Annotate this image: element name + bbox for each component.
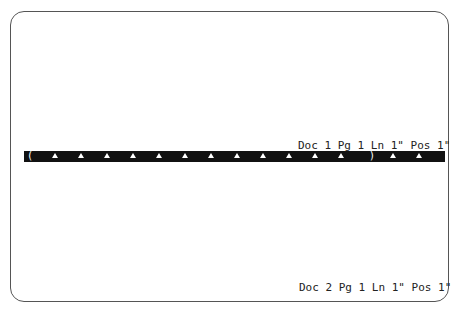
tab-stop-marker-icon[interactable] xyxy=(156,153,162,158)
tab-stop-marker-icon[interactable] xyxy=(208,153,214,158)
tab-stop-marker-icon[interactable] xyxy=(182,153,188,158)
doc2-status-line: Doc 2 Pg 1 Ln 1" Pos 1" xyxy=(299,281,451,294)
tab-stop-marker-icon[interactable] xyxy=(286,153,292,158)
tab-stop-marker-icon[interactable] xyxy=(338,153,344,158)
tab-stop-marker-icon[interactable] xyxy=(416,153,422,158)
tab-stop-marker-icon[interactable] xyxy=(260,153,266,158)
left-margin-marker[interactable]: ( xyxy=(27,150,33,161)
tab-stop-marker-icon[interactable] xyxy=(390,153,396,158)
tab-stop-marker-icon[interactable] xyxy=(234,153,240,158)
tab-stop-marker-icon[interactable] xyxy=(312,153,318,158)
tab-ruler-bar[interactable]: ( ) xyxy=(24,151,445,162)
right-margin-marker[interactable]: ) xyxy=(369,150,375,161)
tab-stop-marker-icon[interactable] xyxy=(78,153,84,158)
tab-stop-marker-icon[interactable] xyxy=(52,153,58,158)
tab-stop-marker-icon[interactable] xyxy=(130,153,136,158)
tab-stop-marker-icon[interactable] xyxy=(104,153,110,158)
